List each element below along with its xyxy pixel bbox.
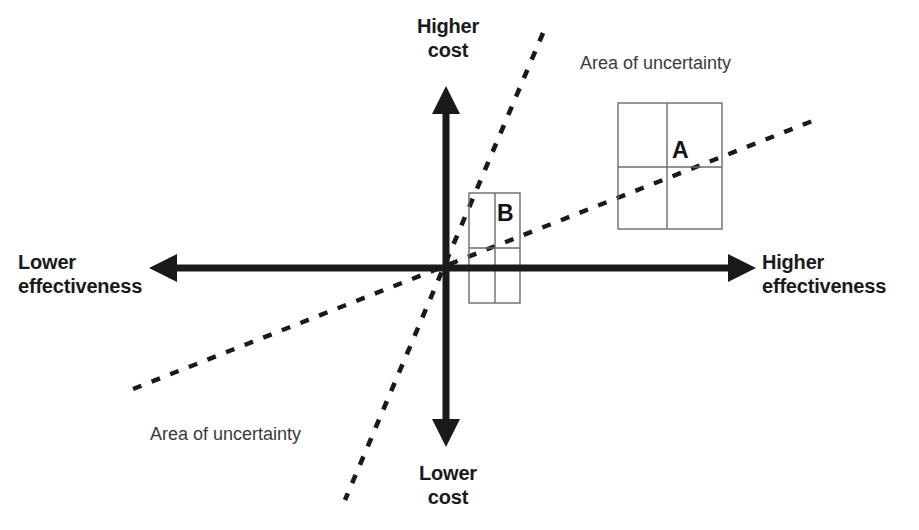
confidence-box-b-letter: B	[497, 202, 514, 225]
cost-effectiveness-plane-figure: Higher cost Lower cost Lower effectivene…	[0, 0, 919, 530]
higher-cost-label: Higher cost	[378, 14, 518, 62]
confidence-box-a	[618, 103, 722, 229]
lower-effectiveness-label: Lower effectiveness	[18, 250, 153, 298]
confidence-box-a-letter: A	[672, 139, 689, 162]
higher-effectiveness-label: Higher effectiveness	[762, 250, 917, 298]
cost-axis-up-arrowhead	[432, 86, 460, 114]
confidence-box-a-outline	[618, 103, 722, 229]
area-of-uncertainty-label-upper-right: Area of uncertainty	[580, 52, 731, 74]
lower-cost-label: Lower cost	[378, 461, 518, 509]
effectiveness-axis-left-arrowhead	[149, 254, 177, 282]
cost-axis-down-arrowhead	[432, 419, 460, 447]
effectiveness-axis-right-arrowhead	[728, 254, 756, 282]
area-of-uncertainty-label-lower-left: Area of uncertainty	[150, 423, 301, 445]
